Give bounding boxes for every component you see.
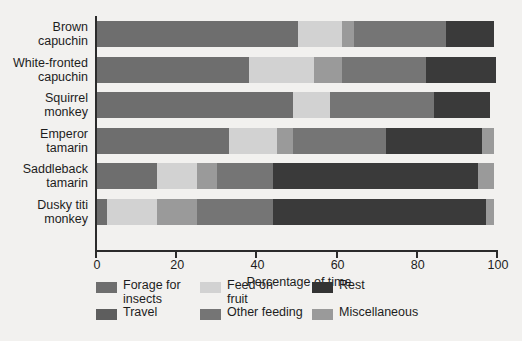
legend-label-line: insects [123, 293, 181, 307]
category-label: Saddlebacktamarin [0, 162, 88, 190]
stacked-bar [97, 92, 490, 118]
bar-segment [273, 199, 486, 225]
bar-segment [97, 57, 249, 83]
bar-segment [97, 21, 298, 47]
legend-label: Rest [339, 279, 365, 293]
legend-swatch [200, 282, 221, 293]
x-axis-line [95, 250, 498, 252]
bar-segment [97, 92, 293, 118]
legend-label: Travel [123, 306, 157, 320]
bar-segment [426, 57, 496, 83]
bar-segment [197, 199, 273, 225]
category-label-line: monkey [0, 212, 88, 226]
legend-label-line: Travel [123, 306, 157, 320]
category-label-line: White-fronted [0, 56, 88, 70]
bar-segment [446, 21, 494, 47]
category-label-line: Emperor [0, 127, 88, 141]
bar-segment [330, 92, 434, 118]
category-label: Emperortamarin [0, 127, 88, 155]
category-label-line: capuchin [0, 34, 88, 48]
legend-swatch [96, 309, 117, 320]
stacked-bar [97, 57, 496, 83]
legend-swatch [200, 309, 221, 320]
stacked-bar [97, 163, 494, 189]
bar-segment [293, 92, 329, 118]
category-label: White-frontedcapuchin [0, 56, 88, 84]
category-label-line: Saddleback [0, 162, 88, 176]
legend-label-line: fruit [227, 293, 273, 307]
category-label: Browncapuchin [0, 20, 88, 48]
bar-segment [229, 128, 277, 154]
legend-label-line: Forage for [123, 279, 181, 293]
legend-label: Miscellaneous [339, 306, 418, 320]
x-tick-label-80: 80 [398, 258, 438, 272]
bar-segment [478, 163, 494, 189]
category-label-line: tamarin [0, 141, 88, 155]
category-label-line: capuchin [0, 70, 88, 84]
legend-label-line: Rest [339, 279, 365, 293]
x-tick-label-100: 100 [478, 258, 518, 272]
bar-segment [298, 21, 342, 47]
bar-segment [354, 21, 446, 47]
stacked-bar [97, 21, 494, 47]
category-label-line: monkey [0, 105, 88, 119]
bar-segment [386, 128, 482, 154]
bar-segment [197, 163, 217, 189]
bar-segment [342, 21, 354, 47]
x-tick-label-20: 20 [157, 258, 197, 272]
legend-swatch [96, 282, 117, 293]
category-label-line: tamarin [0, 176, 88, 190]
stacked-bar [97, 199, 494, 225]
x-tick-label-60: 60 [318, 258, 358, 272]
category-label-line: Squirrel [0, 91, 88, 105]
bar-segment [97, 128, 229, 154]
legend-label-line: Other feeding [227, 306, 303, 320]
category-label-line: Brown [0, 20, 88, 34]
legend-label: Forage forinsects [123, 279, 181, 306]
bar-segment [157, 199, 197, 225]
legend-swatch [312, 309, 333, 320]
bar-segment [486, 199, 494, 225]
bar-segment [277, 128, 293, 154]
bar-segment [434, 92, 490, 118]
plot-area: 020406080100 BrowncapuchinWhite-frontedc… [0, 0, 522, 275]
bar-segment [314, 57, 342, 83]
legend-label-line: Feed on [227, 279, 273, 293]
bar-segment [249, 57, 313, 83]
category-label: Dusky titimonkey [0, 198, 88, 226]
bar-segment [97, 199, 107, 225]
bar-segment [273, 163, 478, 189]
x-tick-label-0: 0 [77, 258, 117, 272]
bar-segment [482, 128, 494, 154]
bar-segment [342, 57, 426, 83]
x-tick-label-40: 40 [237, 258, 277, 272]
category-label: Squirrelmonkey [0, 91, 88, 119]
bar-segment [293, 128, 385, 154]
bar-segment [97, 163, 157, 189]
stacked-bar [97, 128, 494, 154]
legend-label: Feed onfruit [227, 279, 273, 306]
legend-swatch [312, 282, 333, 293]
legend-label: Other feeding [227, 306, 303, 320]
category-label-line: Dusky titi [0, 198, 88, 212]
stacked-bar-chart: 020406080100 BrowncapuchinWhite-frontedc… [0, 0, 522, 341]
bar-segment [217, 163, 273, 189]
bar-segment [157, 163, 197, 189]
chart-legend: Forage forinsectsFeed onfruitRestTravelO… [96, 281, 436, 333]
bar-segment [107, 199, 157, 225]
legend-label-line: Miscellaneous [339, 306, 418, 320]
